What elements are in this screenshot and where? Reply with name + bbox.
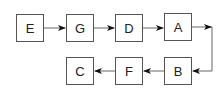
node-f-label: F	[125, 64, 133, 79]
node-g-label: G	[75, 21, 85, 36]
node-f: F	[115, 57, 143, 85]
node-c-label: C	[75, 64, 84, 79]
node-c: C	[66, 57, 94, 85]
node-a-label: A	[174, 20, 183, 35]
edge-a-b	[192, 27, 212, 71]
node-g: G	[66, 14, 94, 42]
node-d: D	[115, 14, 143, 42]
node-b-label: B	[174, 64, 183, 79]
node-e-label: E	[26, 21, 35, 36]
node-d-label: D	[124, 21, 133, 36]
node-b: B	[164, 57, 192, 85]
node-a: A	[164, 13, 192, 41]
node-e: E	[16, 14, 44, 42]
